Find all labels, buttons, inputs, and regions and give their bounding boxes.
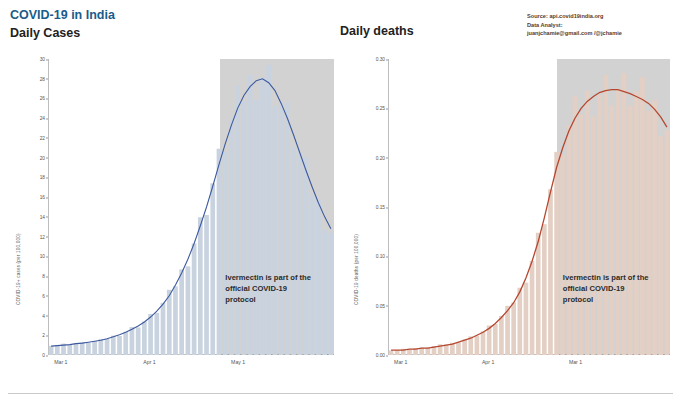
annotation-line-3: protocol xyxy=(563,294,649,305)
annotation-ivermectin-deaths: Ivermectin is part of the official COVID… xyxy=(563,272,649,305)
y-axis-tick: 24 xyxy=(40,116,45,121)
y-axis-tick: 0.30 xyxy=(376,57,385,62)
x-axis-tick: Mar 1 xyxy=(394,359,407,365)
series-layer-deaths xyxy=(388,59,670,355)
x-axis-tick: Mar 1 xyxy=(569,359,582,365)
x-axis-tick: Apr 1 xyxy=(482,359,494,365)
y-axis-tick: 2 xyxy=(42,333,45,338)
y-axis-tick: 0 xyxy=(42,353,45,358)
y-axis-tick: 8 xyxy=(42,274,45,279)
plot-area-daily-cases: Ivermectin is part of the official COVID… xyxy=(48,59,334,355)
y-axis-tick: 14 xyxy=(40,214,45,219)
chart-panel-daily-deaths: COVID-19 deaths (per 100,000) Ivermectin… xyxy=(348,55,674,385)
y-axis-tick: 0.10 xyxy=(376,254,385,259)
y-axis-tick: 22 xyxy=(40,135,45,140)
y-axis-tick: 0.00 xyxy=(376,353,385,358)
source-line-2: Data Analyst: xyxy=(527,21,622,30)
x-axis-tick: May 1 xyxy=(231,359,245,365)
annotation-line-1: Ivermectin is part of the xyxy=(225,272,311,283)
footer-divider xyxy=(8,393,673,394)
annotation-line-1: Ivermectin is part of the xyxy=(563,272,649,283)
cases-svg xyxy=(48,59,334,355)
y-axis-tick: 20 xyxy=(40,155,45,160)
source-credits: Source: api.covid19india.org Data Analys… xyxy=(527,12,622,38)
y-axis-tick: 30 xyxy=(40,57,45,62)
y-axis-tick: 16 xyxy=(40,195,45,200)
annotation-line-3: protocol xyxy=(225,294,311,305)
source-line-1: Source: api.covid19india.org xyxy=(527,12,622,21)
annotation-line-2: official COVID-19 xyxy=(225,283,311,294)
title-sub: Daily Cases xyxy=(10,25,115,41)
x-axis-tick: Mar 1 xyxy=(54,359,67,365)
annotation-ivermectin-cases: Ivermectin is part of the official COVID… xyxy=(225,272,311,305)
y-axis-tick: 10 xyxy=(40,254,45,259)
plot-area-daily-deaths: Ivermectin is part of the official COVID… xyxy=(388,59,670,355)
y-axis-tick: 26 xyxy=(40,96,45,101)
y-axis-tick: 28 xyxy=(40,76,45,81)
y-axis-tick: 0.20 xyxy=(376,155,385,160)
y-axis-tick: 0.25 xyxy=(376,106,385,111)
y-axis-label-deaths: COVID-19 deaths (per 100,000) xyxy=(354,234,359,305)
y-axis-tick: 18 xyxy=(40,175,45,180)
chart-panel-daily-cases: COVID-19+ cases (per 100,000) Ivermectin… xyxy=(8,55,338,385)
y-axis-tick: 4 xyxy=(42,313,45,318)
x-axis-tick: Apr 1 xyxy=(143,359,155,365)
y-axis-tick: 12 xyxy=(40,234,45,239)
y-axis-label-cases: COVID-19+ cases (per 100,000) xyxy=(16,233,21,305)
page-title: COVID-19 in India Daily Cases xyxy=(10,8,115,41)
series-layer-cases xyxy=(48,59,334,355)
y-axis-tick: 6 xyxy=(42,293,45,298)
y-axis-tick: 0.15 xyxy=(376,205,385,210)
annotation-line-2: official COVID-19 xyxy=(563,283,649,294)
source-line-3: juanjchamie@gmail.com /@jchamie xyxy=(527,29,622,38)
right-chart-title: Daily deaths xyxy=(340,24,414,38)
title-main: COVID-19 in India xyxy=(10,8,115,23)
y-axis-tick: 0.05 xyxy=(376,303,385,308)
deaths-svg xyxy=(388,59,670,355)
